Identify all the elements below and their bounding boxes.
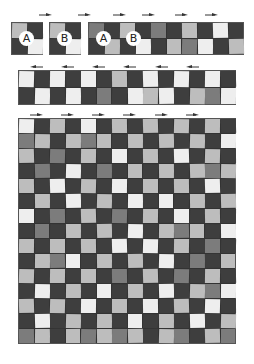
quilt-tile bbox=[112, 209, 127, 223]
middle-strip-tile bbox=[65, 71, 80, 87]
quilt-tile bbox=[50, 119, 65, 133]
top-strip-label-a: A bbox=[96, 31, 111, 46]
quilt-tile bbox=[158, 314, 173, 328]
top-strip-label-b: B bbox=[126, 31, 141, 46]
quilt-tile bbox=[81, 314, 96, 328]
quilt-tile bbox=[50, 269, 65, 283]
middle-strip-tile bbox=[220, 71, 235, 87]
quilt-tile bbox=[81, 299, 96, 313]
quilt-tile bbox=[159, 119, 174, 133]
quilt-tile bbox=[158, 149, 173, 163]
middle-strip-tile bbox=[81, 88, 96, 104]
quilt-tile bbox=[112, 179, 127, 193]
quilt-tile bbox=[189, 329, 204, 343]
quilt-tile bbox=[189, 119, 204, 133]
quilt-tile bbox=[189, 194, 204, 208]
quilt-tile bbox=[174, 179, 189, 193]
quilt-tile bbox=[220, 149, 235, 163]
middle-strip-tile bbox=[96, 71, 111, 87]
quilt-tile bbox=[112, 284, 127, 298]
quilt-tile bbox=[189, 254, 204, 268]
quilt-tile bbox=[158, 209, 173, 223]
quilt-tile bbox=[128, 164, 143, 178]
arrow-left-icon bbox=[61, 64, 74, 69]
quilt-tile bbox=[158, 329, 173, 343]
quilt-tile bbox=[19, 224, 34, 238]
quilt-tile bbox=[189, 314, 204, 328]
quilt-tile bbox=[143, 314, 158, 328]
quilt-tile bbox=[96, 149, 111, 163]
quilt-tile bbox=[189, 209, 204, 223]
quilt-tile bbox=[34, 164, 49, 178]
arrow-right-icon bbox=[39, 12, 52, 17]
quilt-tile bbox=[220, 194, 235, 208]
quilt-tile bbox=[65, 194, 80, 208]
quilt-tile bbox=[96, 239, 111, 253]
quilt-tile bbox=[81, 179, 96, 193]
quilt-tile bbox=[19, 164, 34, 178]
quilt-tile bbox=[174, 164, 189, 178]
quilt-tile bbox=[127, 224, 142, 238]
top-strip-tile bbox=[213, 39, 228, 54]
quilt-tile bbox=[50, 224, 65, 238]
arrow-right-icon bbox=[155, 112, 168, 117]
quilt-tile bbox=[220, 314, 235, 328]
quilt-tile bbox=[65, 269, 80, 283]
quilt-tile bbox=[112, 134, 127, 148]
quilt-tile bbox=[96, 329, 111, 343]
middle-strip-tile bbox=[189, 88, 204, 104]
quilt-tile bbox=[220, 299, 235, 313]
arrow-right-icon bbox=[30, 112, 43, 117]
quilt-tile bbox=[34, 119, 49, 133]
middle-strip-tile bbox=[205, 71, 220, 87]
quilt-tile bbox=[81, 119, 96, 133]
quilt-tile bbox=[127, 119, 142, 133]
quilt-tile bbox=[34, 209, 49, 223]
quilt-tile bbox=[96, 269, 111, 283]
quilt-tile bbox=[50, 179, 65, 193]
quilt-tile bbox=[65, 239, 80, 253]
quilt-tile bbox=[66, 179, 81, 193]
top-strip-tile bbox=[213, 23, 228, 38]
quilt-tile bbox=[190, 149, 205, 163]
top-strip bbox=[88, 22, 244, 55]
quilt-tile bbox=[158, 164, 173, 178]
quilt-tile bbox=[127, 149, 142, 163]
quilt-tile bbox=[112, 254, 127, 268]
quilt-tile bbox=[96, 224, 111, 238]
quilt-tile bbox=[174, 239, 189, 253]
quilt-tile bbox=[174, 299, 189, 313]
quilt-tile bbox=[127, 209, 142, 223]
quilt-tile bbox=[174, 149, 189, 163]
middle-strip-tile bbox=[34, 71, 49, 87]
middle-strip-tile bbox=[19, 88, 34, 104]
top-strip-tile bbox=[182, 39, 197, 54]
quilt-tile bbox=[112, 314, 127, 328]
quilt-tile bbox=[35, 224, 50, 238]
middle-strip-tile bbox=[159, 71, 174, 87]
quilt-tile bbox=[143, 284, 158, 298]
quilt-tile bbox=[159, 194, 174, 208]
quilt-tile bbox=[205, 329, 220, 343]
quilt-tile bbox=[158, 134, 173, 148]
top-strip-tile bbox=[151, 23, 166, 38]
quilt-tile bbox=[65, 119, 80, 133]
quilt-tile bbox=[65, 314, 80, 328]
middle-strip-tile bbox=[174, 88, 189, 104]
middle-strip-tile bbox=[19, 71, 34, 87]
quilt-tile bbox=[143, 119, 158, 133]
middle-strip-tile bbox=[189, 71, 204, 87]
arrow-right-icon bbox=[142, 12, 155, 17]
quilt-tile bbox=[158, 284, 173, 298]
quilt-tile bbox=[34, 239, 49, 253]
quilt-tile bbox=[205, 224, 220, 238]
quilt-tile bbox=[19, 239, 34, 253]
middle-strip-tile bbox=[112, 71, 127, 87]
quilt-tile bbox=[220, 284, 235, 298]
top-strip-tile bbox=[197, 23, 212, 38]
quilt-tile bbox=[220, 164, 235, 178]
quilt-tile bbox=[189, 134, 204, 148]
quilt-tile bbox=[34, 329, 49, 343]
quilt-tile bbox=[190, 299, 205, 313]
quilt-tile bbox=[112, 164, 127, 178]
